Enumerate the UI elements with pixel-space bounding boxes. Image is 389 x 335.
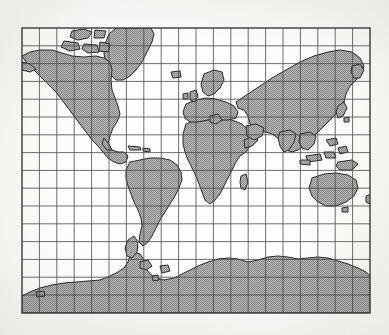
iceland bbox=[171, 71, 181, 78]
canadian-arctic-islands bbox=[94, 30, 106, 38]
southeast-asia-islands bbox=[300, 160, 310, 165]
japan bbox=[344, 117, 349, 122]
world-map-figure bbox=[0, 0, 389, 335]
british-isles bbox=[183, 93, 188, 99]
australia bbox=[342, 207, 348, 212]
graticule-grid bbox=[22, 28, 370, 313]
new-zealand bbox=[370, 205, 376, 212]
north-america bbox=[128, 146, 141, 150]
antarctica bbox=[152, 275, 159, 281]
antarctica bbox=[36, 291, 45, 297]
world-map-graphic bbox=[0, 0, 389, 335]
canadian-arctic-islands bbox=[99, 42, 110, 52]
